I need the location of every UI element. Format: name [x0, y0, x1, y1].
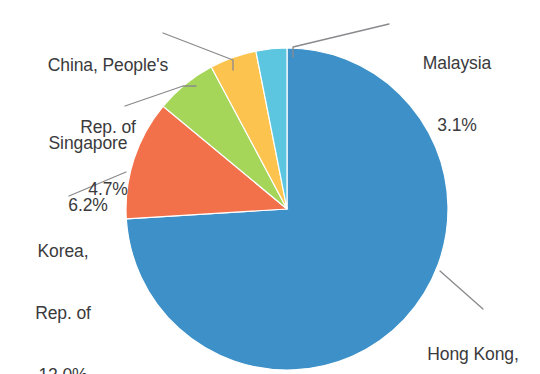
pie-chart-figure: China, People's Rep. of 4.7% Singapore 6… [0, 0, 540, 374]
slice-label-hongkong-line1: Hong Kong, [412, 344, 534, 365]
slice-label-malaysia-value: 3.1% [392, 115, 522, 136]
slice-label-malaysia-line1: Malaysia [392, 53, 522, 74]
slice-label-china-line1: China, People's [18, 55, 198, 76]
slice-label-hongkong: Hong Kong, China 74.1% [412, 303, 534, 374]
slice-label-korea-value: 12.0% [8, 365, 118, 374]
slice-label-singapore-line1: Singapore [18, 133, 158, 154]
slice-label-korea-line2: Rep. of [8, 303, 118, 324]
slice-label-korea: Korea, Rep. of 12.0% [8, 200, 118, 374]
slice-label-korea-line1: Korea, [8, 241, 118, 262]
slice-label-malaysia: Malaysia 3.1% [392, 12, 522, 177]
